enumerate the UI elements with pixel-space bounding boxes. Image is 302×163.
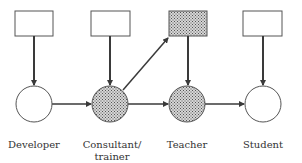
node-teacher	[169, 86, 205, 122]
box-developer	[15, 11, 53, 36]
node-developer	[16, 86, 52, 122]
box-student	[243, 11, 282, 36]
edge-consultant-to-box-teacher	[123, 38, 168, 90]
flow-diagram: Developer Consultant/ trainer Teacher St…	[0, 0, 302, 163]
label-consultant-line2: trainer	[94, 151, 129, 162]
label-developer: Developer	[8, 139, 60, 150]
label-consultant: Consultant/	[83, 139, 142, 150]
node-student	[245, 86, 281, 122]
node-consultant	[92, 86, 128, 122]
label-teacher: Teacher	[167, 139, 208, 150]
box-teacher	[169, 11, 207, 36]
label-student: Student	[243, 139, 283, 150]
box-consultant	[91, 11, 130, 36]
